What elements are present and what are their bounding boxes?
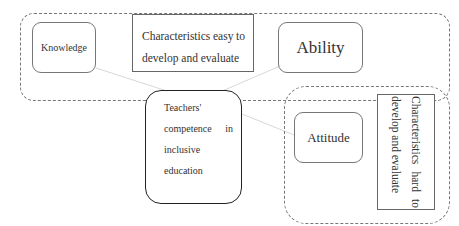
hard-word-3: to <box>406 199 426 208</box>
center-line-4: education <box>164 160 233 181</box>
ability-label: Ability <box>296 38 344 58</box>
center-line-1: Teachers' <box>164 97 233 118</box>
center-line-2a: competence <box>164 118 212 139</box>
hard-word-2: hard <box>406 171 426 191</box>
knowledge-label: Knowledge <box>41 42 87 53</box>
easy-word-3: to <box>236 25 245 47</box>
hard-characteristics-label-box: Characteristics hard to develop and eval… <box>377 94 435 210</box>
central-competence-node: Teachers' competence in inclusive educat… <box>145 90 242 204</box>
center-line-2b: in <box>225 118 233 139</box>
ability-node: Ability <box>278 22 363 73</box>
hard-word-1: Characteristics <box>406 96 426 164</box>
easy-line-2: develop and evaluate <box>142 47 245 69</box>
easy-word-1: Characteristics <box>142 25 210 47</box>
attitude-label: Attitude <box>307 130 350 146</box>
center-line-3: inclusive <box>164 139 233 160</box>
attitude-node: Attitude <box>294 112 363 163</box>
hard-line-2: develop and evaluate <box>386 96 406 208</box>
knowledge-node: Knowledge <box>32 22 96 73</box>
easy-characteristics-label-box: Characteristics easy to develop and eval… <box>132 14 254 72</box>
easy-word-2: easy <box>213 25 233 47</box>
